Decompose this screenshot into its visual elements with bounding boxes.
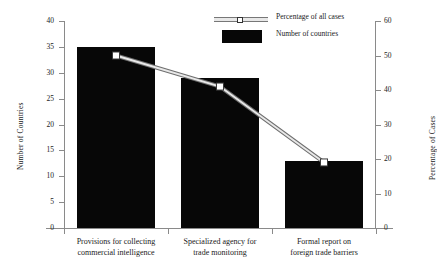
x-axis-category-label-line: foreign trade barriers	[264, 248, 384, 259]
y-axis-right-tick	[376, 194, 381, 195]
x-axis-category-label-line: trade monitoring	[160, 248, 280, 259]
x-axis-line	[46, 228, 393, 229]
line-series	[64, 21, 376, 228]
y-axis-left-tick-label: 40	[36, 16, 54, 25]
y-axis-left-tick-label: 10	[36, 171, 54, 180]
y-axis-left-tick-label: 15	[36, 145, 54, 154]
y-axis-right-tick-label: 50	[384, 51, 402, 60]
x-axis-category-label-line: Provisions for collecting	[56, 237, 176, 248]
x-axis-category-label-line: commercial intelligence	[56, 248, 176, 259]
y-axis-right-tick	[376, 56, 381, 57]
y-axis-left-tick-label: 35	[36, 42, 54, 51]
y-axis-right-title: Percentage of Cases	[428, 116, 437, 180]
chart-container: Percentage of all cases Number of countr…	[0, 0, 437, 269]
x-axis-tick	[376, 229, 377, 234]
y-axis-left-tick-label: 30	[36, 68, 54, 77]
y-axis-right-tick-label: 40	[384, 85, 402, 94]
x-axis-category-label-line: Specialized agency for	[160, 237, 280, 248]
legend-label-percentage: Percentage of all cases	[276, 12, 344, 21]
data-point-marker	[217, 83, 224, 90]
data-point-marker	[113, 52, 120, 59]
y-axis-right-tick-label: 20	[384, 154, 402, 163]
y-axis-right-tick	[376, 159, 381, 160]
x-axis-category-label-line: Formal report on	[264, 237, 384, 248]
y-axis-left-tick-label: 20	[36, 120, 54, 129]
x-axis-tick	[272, 229, 273, 234]
x-axis-tick	[168, 229, 169, 234]
y-axis-left-title: Number of Countries	[16, 102, 25, 170]
y-axis-left-tick-label: 5	[36, 197, 54, 206]
y-axis-right-tick	[376, 21, 381, 22]
y-axis-right-tick-label: 30	[384, 120, 402, 129]
x-axis-category-label: Specialized agency fortrade monitoring	[160, 237, 280, 258]
x-axis-category-label: Formal report onforeign trade barriers	[264, 237, 384, 258]
x-axis-category-label: Provisions for collectingcommercial inte…	[56, 237, 176, 258]
x-axis-tick	[64, 229, 65, 234]
line-path	[116, 56, 324, 163]
y-axis-right-tick-label: 60	[384, 16, 402, 25]
y-axis-left-tick-label: 0	[36, 223, 54, 232]
plot-area	[64, 21, 376, 228]
y-axis-right-tick-label: 0	[384, 223, 402, 232]
y-axis-right-tick	[376, 90, 381, 91]
y-axis-right-tick-label: 10	[384, 189, 402, 198]
y-axis-left-tick-label: 25	[36, 94, 54, 103]
data-point-marker	[321, 159, 328, 166]
line-outline	[116, 56, 324, 163]
y-axis-right-tick	[376, 125, 381, 126]
